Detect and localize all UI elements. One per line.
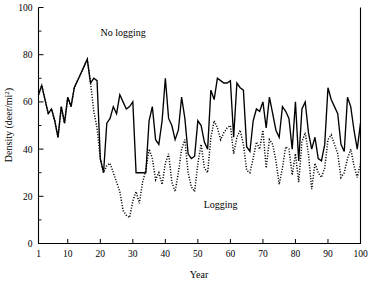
x-tick-label-1: 1 <box>36 249 41 259</box>
deer-density-figure: 1102030405060708090100 020406080100 Year… <box>0 0 373 288</box>
y-axis-title-base: Density (deer/mi <box>3 94 15 162</box>
y-tick-label-0: 0 <box>28 239 33 249</box>
x-axis-tick-labels: 1102030405060708090100 <box>36 249 368 259</box>
line-chart: 1102030405060708090100 020406080100 Year… <box>0 0 373 288</box>
y-tick-label-40: 40 <box>23 145 33 155</box>
series-logging <box>39 59 361 217</box>
x-tick-label-90: 90 <box>323 249 333 259</box>
y-tick-label-20: 20 <box>23 192 33 202</box>
x-tick-label-70: 70 <box>258 249 268 259</box>
y-tick-label-80: 80 <box>23 50 33 60</box>
y-tick-label-60: 60 <box>23 97 33 107</box>
x-tick-label-20: 20 <box>96 249 106 259</box>
annotation-logging: Logging <box>204 199 238 210</box>
chart-axes <box>39 8 361 244</box>
y-axis-title-tail: ) <box>3 88 15 91</box>
x-tick-label-80: 80 <box>291 249 301 259</box>
x-axis-title: Year <box>190 269 209 280</box>
annotation-no-logging: No logging <box>100 27 145 38</box>
x-tick-label-40: 40 <box>161 249 171 259</box>
chart-series <box>39 59 361 217</box>
x-tick-label-10: 10 <box>63 249 73 259</box>
y-axis-title-text: Density (deer/mi2) <box>3 88 15 162</box>
x-tick-label-30: 30 <box>128 249 138 259</box>
x-tick-label-100: 100 <box>353 249 368 259</box>
x-tick-label-50: 50 <box>193 249 203 259</box>
x-tick-label-60: 60 <box>226 249 236 259</box>
chart-ticks <box>39 8 361 244</box>
y-axis-title: Density (deer/mi2) <box>3 88 15 162</box>
axis-frame <box>39 8 361 244</box>
y-axis-tick-labels: 020406080100 <box>18 3 33 249</box>
y-tick-label-100: 100 <box>18 3 33 13</box>
